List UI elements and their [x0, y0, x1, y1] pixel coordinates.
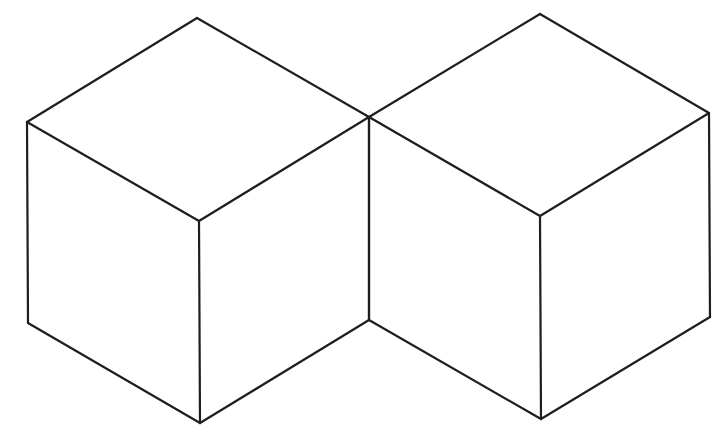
cube-edge — [200, 320, 369, 423]
cube-edge — [27, 18, 197, 122]
cube-edge — [541, 317, 710, 419]
cube-edge — [540, 216, 541, 419]
cube-edge — [28, 323, 200, 423]
cube-edge — [540, 113, 709, 216]
right-cube — [369, 14, 710, 419]
cube-edge — [199, 117, 369, 221]
left-cube — [27, 18, 369, 423]
cube-edge — [197, 18, 369, 117]
two-cubes-diagram — [0, 0, 717, 448]
cube-edge — [27, 122, 199, 221]
cube-edge — [27, 122, 28, 323]
cube-edge — [709, 113, 710, 317]
cube-edge — [540, 14, 709, 113]
cube-edge — [369, 14, 540, 117]
cube-edge — [369, 117, 540, 216]
diagram-canvas — [0, 0, 717, 448]
cube-edge — [369, 320, 541, 419]
cube-edge — [199, 221, 200, 423]
